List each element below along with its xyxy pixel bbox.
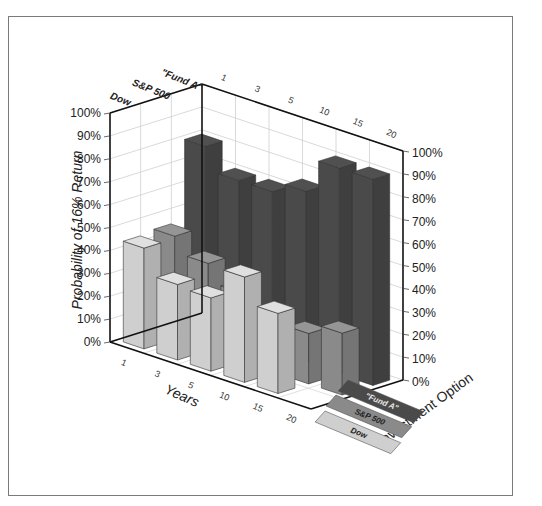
bar-side-face (278, 308, 295, 393)
y-tick-label-right: 40% (412, 283, 436, 297)
bars (123, 134, 389, 395)
bar-side-face (373, 174, 390, 385)
y-tick (104, 319, 110, 320)
y-tick-label-left: 0% (84, 335, 102, 349)
y-tick-label-right: 60% (412, 238, 436, 252)
y-tick (403, 334, 409, 335)
y-tick (104, 250, 110, 251)
y-tick (403, 220, 409, 221)
y-tick (403, 288, 409, 289)
y-tick (104, 113, 110, 114)
bar-dow-5 (190, 286, 228, 372)
y-tick-label-right: 70% (412, 215, 436, 229)
row-label: Dow (109, 90, 134, 109)
bar-front-face (190, 291, 211, 371)
y-tick-label-left: 10% (77, 312, 101, 326)
y-tick (104, 228, 110, 229)
y-tick (104, 273, 110, 274)
x-tick-label-back: 15 (351, 116, 364, 129)
y-tick-label-left: 90% (77, 129, 101, 143)
y-tick-label-left: 100% (70, 106, 101, 120)
bar-front-face (321, 326, 342, 395)
y-tick (104, 182, 110, 183)
bar-front-face (257, 307, 278, 394)
y-tick-label-right: 90% (412, 169, 436, 183)
y-tick-label-right: 80% (412, 192, 436, 206)
y-tick-label-right: 30% (412, 306, 436, 320)
x-tick-label-back: 3 (253, 83, 262, 94)
y-tick (104, 296, 110, 297)
y-axis-title: Probability of 16% Return (69, 150, 85, 309)
x-tick-label-front: 10 (218, 390, 231, 403)
bar-dow-3 (157, 272, 195, 360)
x-tick-label-back: 20 (385, 127, 398, 140)
y-tick (403, 380, 409, 381)
bar-dow-10 (224, 265, 262, 383)
y-tick (403, 266, 409, 267)
bar-front-face (224, 270, 245, 382)
y-tick-label-right: 0% (412, 375, 430, 389)
x-axis-title: Years (162, 381, 201, 410)
y-tick-label-right: 50% (412, 261, 436, 275)
y-tick (403, 197, 409, 198)
row-label: S&P 500 (131, 77, 172, 102)
y-tick (104, 205, 110, 206)
y-tick (403, 174, 409, 175)
x-tick-label-front: 1 (120, 357, 129, 368)
y-tick-label-right: 20% (412, 329, 436, 343)
x-tick-label-back: 1 (220, 72, 229, 83)
chart-3d-bar: 0%0%10%10%20%20%30%30%40%40%50%50%60%60%… (0, 0, 542, 506)
bar-front-face (157, 278, 178, 361)
x-tick-label-front: 20 (285, 412, 298, 425)
y-tick (104, 342, 110, 343)
x-tick-label-front: 15 (251, 401, 264, 414)
bar-dow-15 (257, 301, 295, 393)
y-tick-label-right: 100% (412, 146, 443, 160)
y-tick (403, 243, 409, 244)
y-tick (104, 136, 110, 137)
y-tick (403, 311, 409, 312)
x-tick-label-back: 5 (287, 95, 296, 106)
y-tick (403, 357, 409, 358)
y-tick-label-right: 10% (412, 352, 436, 366)
y-tick (403, 151, 409, 152)
y-tick (104, 159, 110, 160)
x-tick-label-back: 10 (318, 105, 331, 118)
x-tick-label-front: 3 (153, 368, 162, 379)
